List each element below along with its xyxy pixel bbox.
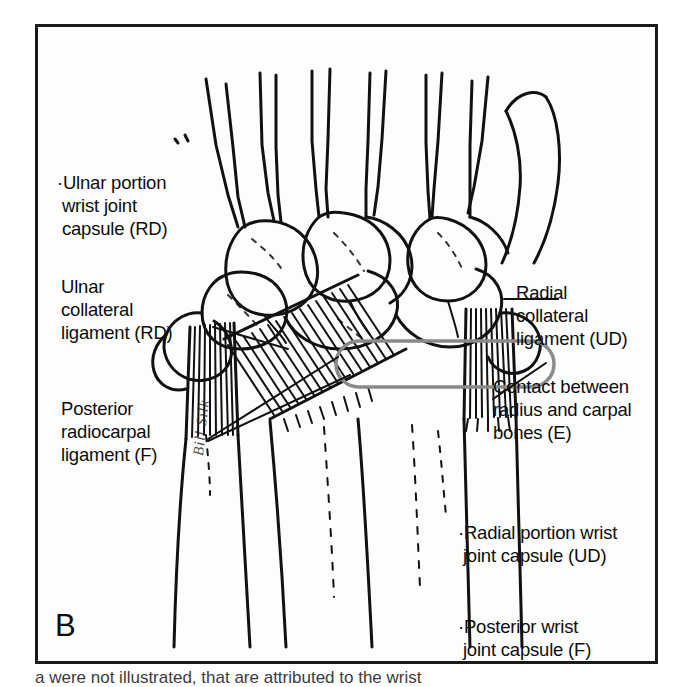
label-line-1: ·Radial portion wrist xyxy=(458,522,617,543)
label-posterior-wrist-joint-capsule: ·Posterior wrist joint capsule (F) xyxy=(458,615,591,661)
figure-root: ·Ulnar portion wrist joint capsule (RD) … xyxy=(0,0,681,687)
label-line-3: bones (E) xyxy=(493,422,571,443)
metacarpal-bones xyxy=(175,69,488,227)
label-line-3: ligament (F) xyxy=(61,444,157,465)
label-line-2: radius and carpal xyxy=(493,399,632,420)
label-line-3: capsule (RD) xyxy=(57,218,168,239)
label-line-2: wrist joint xyxy=(57,195,137,216)
bone-texture xyxy=(228,233,464,343)
first-metacarpal xyxy=(502,93,560,263)
label-radial-collateral-ligament: Radial collateral ligament (UD) xyxy=(516,281,628,350)
label-ulnar-portion-wrist-joint-capsule: ·Ulnar portion wrist joint capsule (RD) xyxy=(57,171,168,240)
label-line-1: Posterior xyxy=(61,398,133,419)
label-line-3: ligament (UD) xyxy=(516,328,628,349)
label-line-3: ligament (RD) xyxy=(61,322,173,343)
label-line-1: ·Posterior wrist xyxy=(458,616,578,637)
posterior-radiocarpal-ligament xyxy=(224,275,406,431)
label-line-1: ·Ulnar portion xyxy=(57,172,166,193)
label-line-2: joint capsule (UD) xyxy=(458,545,606,566)
panel-letter-b: B xyxy=(55,610,76,641)
label-line-2: joint capsule (F) xyxy=(458,639,591,660)
artist-signature: Bill Silk xyxy=(190,398,213,456)
figure-caption-clipped: a were not illustrated, that are attribu… xyxy=(35,671,660,687)
carpal-bones xyxy=(153,212,541,390)
label-radial-portion-wrist-joint-capsule: ·Radial portion wrist joint capsule (UD) xyxy=(458,521,617,567)
label-line-1: Radial xyxy=(516,282,567,303)
label-posterior-radiocarpal-ligament: Posterior radiocarpal ligament (F) xyxy=(61,397,157,466)
label-line-1: Ulnar xyxy=(61,276,104,297)
figure-panel-b: ·Ulnar portion wrist joint capsule (RD) … xyxy=(35,24,658,664)
label-contact-radius-carpal-bones: Contact between radius and carpal bones … xyxy=(493,375,632,444)
label-line-2: collateral xyxy=(61,299,133,320)
label-line-1: Contact between xyxy=(493,376,629,397)
label-ulnar-collateral-ligament: Ulnar collateral ligament (RD) xyxy=(61,275,173,344)
caption-text: a were not illustrated, that are attribu… xyxy=(35,671,421,687)
label-line-2: collateral xyxy=(516,305,588,326)
label-line-2: radiocarpal xyxy=(61,421,150,442)
